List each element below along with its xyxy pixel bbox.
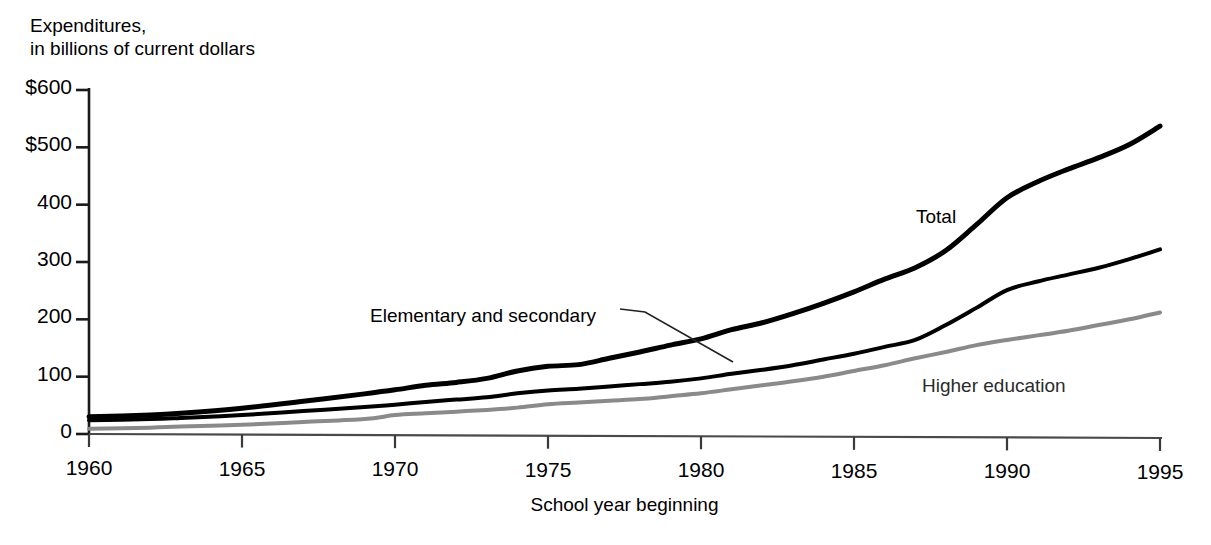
series-label: Total [916, 206, 956, 228]
y-axis-tick-label: $500 [0, 132, 72, 156]
x-axis-tick-label: 1965 [182, 457, 302, 481]
x-axis-title: School year beginning [89, 494, 1160, 516]
series-label: Higher education [922, 375, 1066, 397]
x-axis-tick-label: 1960 [29, 456, 149, 480]
x-axis-tick-label: 1995 [1100, 460, 1211, 484]
y-axis-tick-label: 200 [0, 304, 72, 328]
x-axis-tick-label: 1975 [488, 458, 608, 482]
x-axis-tick-label: 1985 [794, 459, 914, 483]
x-axis-tick-label: 1980 [641, 458, 761, 482]
series-line [89, 312, 1160, 428]
y-axis-tick-label: 400 [0, 190, 72, 214]
x-axis-tick-label: 1970 [335, 457, 455, 481]
series-label: Elementary and secondary [370, 305, 596, 327]
y-axis-tick-label: 300 [0, 247, 72, 271]
y-axis-tick-label: 100 [0, 362, 72, 386]
series-line [89, 126, 1160, 417]
x-axis-tick-label: 1990 [947, 459, 1067, 483]
chart-figure: Expenditures, in billions of current dol… [0, 0, 1211, 545]
x-axis-line [89, 434, 1162, 438]
y-axis-tick-label: $600 [0, 75, 72, 99]
y-axis-tick-label: 0 [0, 419, 72, 443]
